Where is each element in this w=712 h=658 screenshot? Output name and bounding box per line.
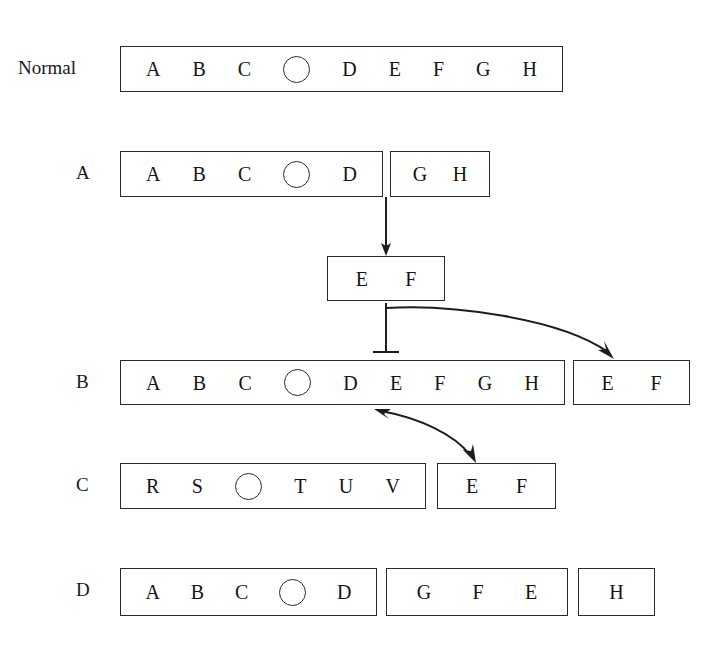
translocation-arrow-head-left [374,409,391,419]
centromere-icon [284,369,311,396]
translocation-arrow-head-right [463,444,476,463]
row-d-left-fragment: A B C D [120,568,377,616]
band-label: U [339,476,353,496]
fragment-transfer-arrow-head [598,341,614,359]
band-label: D [342,164,356,184]
band-label: G [478,373,492,393]
centromere-icon [283,56,310,83]
band-label: F [405,269,416,289]
band-label: B [192,59,205,79]
band-label: E [390,373,402,393]
band-label: D [342,59,356,79]
connector-overlay [0,0,712,658]
band-label: H [524,373,538,393]
band-label: B [193,164,206,184]
band-label: D [343,373,357,393]
band-label: T [294,476,306,496]
band-label: F [650,373,661,393]
band-label: A [145,582,159,602]
band-label: C [238,164,251,184]
band-label: H [453,164,467,184]
row-c-chromosome: R S T U V [120,463,426,509]
band-label: B [193,373,206,393]
band-label: E [466,476,478,496]
band-label: F [516,476,527,496]
row-label-a: A [76,163,90,182]
band-label: H [523,59,537,79]
row-label-c: C [76,475,89,494]
row-d-middle-fragment: G F E [386,568,568,616]
row-b-chromosome: A B C D E F G H [120,360,565,405]
band-label: A [146,59,160,79]
band-label: E [389,59,401,79]
row-label-b: B [76,372,89,391]
band-label: E [525,582,537,602]
chromosome-diagram: Normal A B C D A B C D E F G H A B C D G… [0,0,712,658]
deleted-ef-fragment: E F [327,256,445,301]
row-label-d: D [76,580,90,599]
band-label: G [417,582,431,602]
band-label: D [337,582,351,602]
centromere-icon [279,579,306,606]
band-label: F [473,582,484,602]
row-label-normal: Normal [18,58,76,77]
band-label: E [356,269,368,289]
row-d-right-fragment: H [578,568,655,616]
band-label: A [146,164,160,184]
row-a-right-fragment: G H [390,151,490,197]
band-label: B [191,582,204,602]
band-label: G [413,164,427,184]
band-label: S [192,476,203,496]
band-label: C [238,59,251,79]
normal-chromosome: A B C D E F G H [120,46,563,92]
band-label: C [235,582,248,602]
excision-arrow-head [381,243,391,256]
band-label: G [476,59,490,79]
row-c-ef-fragment: E F [437,463,556,509]
band-label: A [146,373,160,393]
band-label: R [146,476,159,496]
centromere-icon [235,473,262,500]
row-b-ef-fragment: E F [573,360,690,405]
centromere-icon [283,161,310,188]
band-label: F [433,59,444,79]
fragment-transfer-curve [386,307,608,352]
band-label: V [385,476,399,496]
band-label: E [601,373,613,393]
band-label: H [609,582,623,602]
translocation-curve [381,411,470,455]
band-label: F [434,373,445,393]
row-a-left-fragment: A B C D [120,151,383,197]
band-label: C [238,373,251,393]
